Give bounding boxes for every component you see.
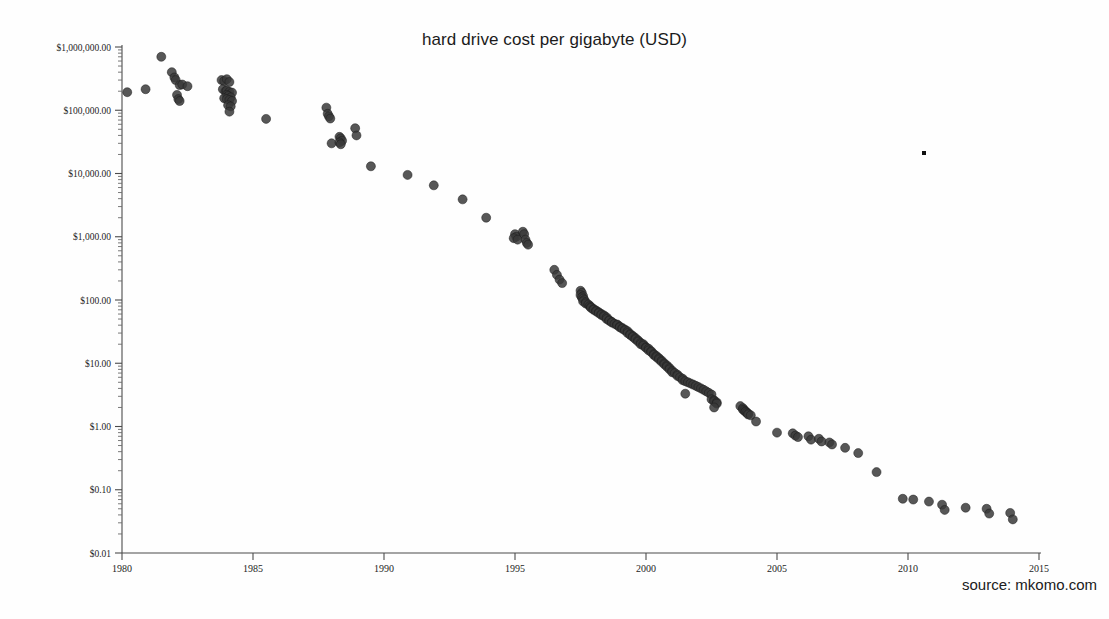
data-point bbox=[985, 509, 994, 518]
data-point bbox=[558, 279, 567, 288]
data-point bbox=[793, 433, 802, 442]
y-tick-label: $10,000.00 bbox=[68, 169, 111, 179]
data-point bbox=[681, 389, 690, 398]
data-points-layer bbox=[123, 52, 1018, 524]
y-axis: $0.01$0.10$1.00$10.00$100.00$1,000.00$10… bbox=[56, 43, 122, 559]
data-point bbox=[909, 495, 918, 504]
y-tick-label: $100,000.00 bbox=[64, 106, 112, 116]
data-point bbox=[710, 403, 719, 412]
y-tick-label: $100.00 bbox=[80, 296, 111, 306]
data-point bbox=[403, 170, 412, 179]
y-tick-label: $1,000.00 bbox=[73, 232, 111, 242]
data-point bbox=[961, 503, 970, 512]
x-tick-label: 1980 bbox=[112, 563, 132, 574]
data-point bbox=[352, 131, 361, 140]
hard-drive-cost-chart: hard drive cost per gigabyte (USD) $0.01… bbox=[0, 0, 1109, 619]
data-point bbox=[157, 52, 166, 61]
data-point bbox=[752, 417, 761, 426]
data-point bbox=[123, 88, 132, 97]
x-tick-label: 2010 bbox=[898, 563, 918, 574]
data-point bbox=[336, 140, 345, 149]
data-point bbox=[326, 114, 335, 123]
x-tick-label: 2015 bbox=[1029, 563, 1049, 574]
data-point bbox=[854, 449, 863, 458]
x-tick-label: 1995 bbox=[505, 563, 525, 574]
source-attribution: source: mkomo.com bbox=[962, 576, 1097, 593]
data-point bbox=[429, 181, 438, 190]
data-point bbox=[524, 240, 533, 249]
stray-mark bbox=[922, 151, 926, 155]
x-tick-label: 2005 bbox=[767, 563, 787, 574]
data-point bbox=[183, 82, 192, 91]
y-tick-label: $10.00 bbox=[85, 359, 111, 369]
data-point bbox=[482, 213, 491, 222]
data-point bbox=[262, 114, 271, 123]
data-point bbox=[366, 162, 375, 171]
data-point bbox=[872, 468, 881, 477]
x-axis: 19801985199019952000200520102015 bbox=[112, 553, 1049, 574]
data-point bbox=[828, 440, 837, 449]
data-point bbox=[773, 428, 782, 437]
data-point bbox=[458, 195, 467, 204]
data-point bbox=[141, 85, 150, 94]
data-point bbox=[898, 494, 907, 503]
y-tick-label: $1,000,000.00 bbox=[56, 43, 111, 53]
data-point bbox=[175, 97, 184, 106]
y-tick-label: $0.01 bbox=[90, 549, 112, 559]
y-tick-label: $0.10 bbox=[90, 485, 112, 495]
x-tick-label: 1985 bbox=[243, 563, 263, 574]
data-point bbox=[940, 505, 949, 514]
x-tick-label: 1990 bbox=[374, 563, 394, 574]
data-point bbox=[1008, 515, 1017, 524]
y-tick-label: $1.00 bbox=[90, 422, 112, 432]
scatter-plot-svg: $0.01$0.10$1.00$10.00$100.00$1,000.00$10… bbox=[0, 0, 1109, 619]
data-point bbox=[225, 107, 234, 116]
data-point bbox=[841, 443, 850, 452]
x-tick-label: 2000 bbox=[636, 563, 656, 574]
data-point bbox=[225, 77, 234, 86]
data-point bbox=[924, 497, 933, 506]
